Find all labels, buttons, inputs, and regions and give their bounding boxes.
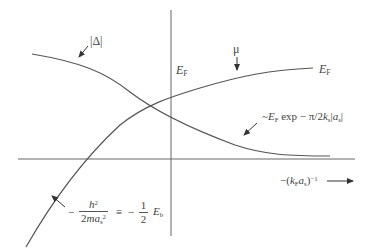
be-half-den: 2 (139, 213, 149, 225)
be-numerator: h2 (79, 199, 108, 212)
mu-label: μ (233, 43, 239, 55)
gap-label-text: |Δ| (90, 34, 103, 48)
be-fraction: h2 2mas2 (79, 199, 108, 226)
binding-energy-label: − h2 2mas2 ≡ − 1 2 Eb (68, 199, 163, 226)
asym-e: E (268, 110, 275, 122)
be-h-sup: 2 (95, 199, 98, 206)
mu-label-text: μ (233, 42, 239, 56)
ef-right-label: EF (319, 63, 330, 76)
be-half: 1 2 (139, 200, 149, 225)
be-denominator: 2mas2 (79, 212, 108, 226)
asym-abs-close: | (341, 110, 343, 122)
be-half-num: 1 (139, 200, 149, 213)
be-eb: Eb (153, 205, 163, 217)
x-label-prefix: −( (280, 174, 290, 186)
gap-label: |Δ| (90, 35, 103, 47)
gap-asymptote-label: ~EF exp − π/2ks|as| (262, 111, 343, 124)
x-label-exp: −1 (310, 175, 317, 182)
be-minus: − (68, 206, 74, 218)
ef-right-sub: F (326, 68, 330, 77)
ef-axis-sub: F (183, 69, 187, 78)
be-e-sub: b (160, 211, 163, 218)
asym-text: exp − π/2 (278, 110, 322, 122)
ef-axis-label: EF (176, 64, 187, 77)
crossover-diagram (0, 0, 370, 249)
gap-asymptote-arrow (244, 123, 257, 135)
gap-label-arrow (79, 46, 88, 57)
be-equiv: ≡ (116, 206, 122, 218)
x-axis-label: −(kFas)−1 (280, 175, 318, 188)
be-den-sup: 2 (103, 213, 106, 220)
be-e: E (153, 205, 160, 217)
be-minus2: − (128, 206, 134, 218)
